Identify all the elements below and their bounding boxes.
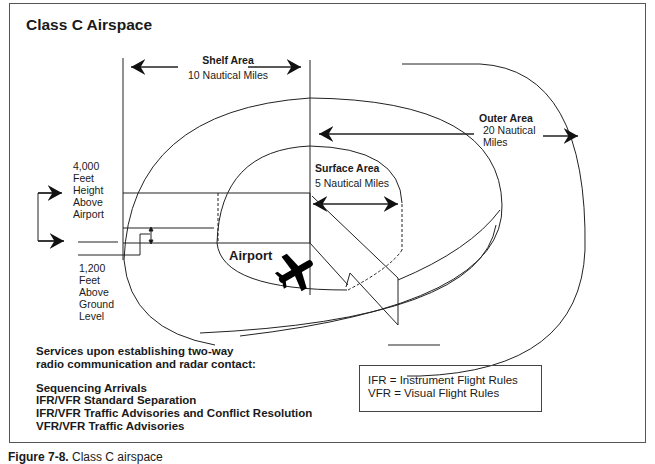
outer-area-distance-line1: 20 Nautical bbox=[483, 124, 536, 136]
surface-area-name: Surface Area bbox=[315, 162, 389, 174]
airport-label: Airport bbox=[229, 250, 272, 262]
surface-area-distance: 5 Nautical Miles bbox=[315, 177, 389, 189]
shelf-ellipse-top bbox=[124, 98, 502, 260]
legend-ifr: IFR = Instrument Flight Rules bbox=[368, 374, 541, 387]
shelf-ellipse-bottom bbox=[240, 205, 502, 336]
shelf-area-name: Shelf Area bbox=[184, 54, 272, 66]
floor-line: Feet bbox=[79, 274, 114, 286]
abbreviation-legend: IFR = Instrument Flight Rules VFR = Visu… bbox=[359, 365, 542, 412]
service-item: IFR/VFR Standard Separation bbox=[36, 394, 312, 407]
altitude-bracket bbox=[38, 193, 56, 241]
floor-line: Ground bbox=[79, 298, 114, 310]
shelf-floor-altitude-label: 1,200 Feet Above Ground Level bbox=[79, 262, 114, 322]
outer-area-boundary bbox=[402, 64, 585, 376]
services-heading-line1: Services upon establishing two-way bbox=[36, 345, 312, 358]
floor-line: Above bbox=[79, 286, 114, 298]
services-list: Services upon establishing two-way radio… bbox=[36, 345, 312, 433]
outer-area-label: Outer Area 20 Nautical Miles bbox=[479, 112, 536, 148]
ceiling-altitude-label: 4,000 Feet Height Above Airport bbox=[73, 160, 104, 220]
outer-area-distance-line2: Miles bbox=[483, 136, 536, 148]
figure-caption: Figure 7-8. Class C airspace bbox=[8, 450, 163, 464]
ceiling-line: Height bbox=[73, 184, 104, 196]
shelf-area-label: Shelf Area 10 Nautical Miles bbox=[184, 54, 272, 81]
ceiling-line: Feet bbox=[73, 172, 104, 184]
service-item: Sequencing Arrivals bbox=[36, 382, 312, 395]
ceiling-line: 4,000 bbox=[73, 160, 104, 172]
floor-line: 1,200 bbox=[79, 262, 114, 274]
outer-area-name: Outer Area bbox=[479, 112, 536, 124]
airplane-icon bbox=[269, 245, 322, 299]
services-heading-line2: radio communication and radar contact: bbox=[36, 358, 312, 371]
surface-area-label: Surface Area 5 Nautical Miles bbox=[315, 162, 389, 189]
service-item: IFR/VFR Traffic Advisories and Conflict … bbox=[36, 407, 312, 420]
figure-caption-text: Class C airspace bbox=[72, 450, 163, 464]
floor-line: Level bbox=[79, 310, 114, 322]
shelf-area-distance: 10 Nautical Miles bbox=[184, 69, 272, 81]
ceiling-line: Above bbox=[73, 196, 104, 208]
service-item: VFR/VFR Traffic Advisories bbox=[36, 420, 312, 433]
legend-vfr: VFR = Visual Flight Rules bbox=[368, 387, 541, 400]
figure-number: Figure 7-8. bbox=[8, 450, 69, 464]
ceiling-line: Airport bbox=[73, 208, 104, 220]
